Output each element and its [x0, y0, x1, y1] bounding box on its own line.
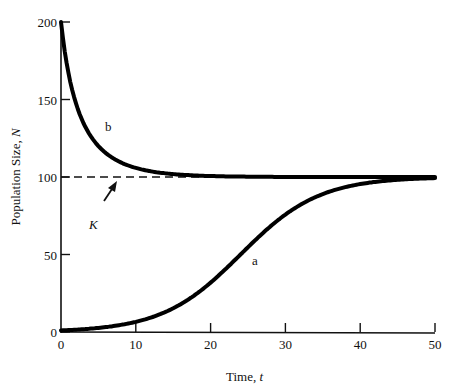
x-tick-label: 0: [58, 337, 65, 352]
y-axis-title-text: Population Size,: [8, 137, 23, 225]
x-tick-label: 50: [429, 337, 442, 352]
logistic-growth-chart: 050100150200 01020304050 a b K Time, t P…: [0, 0, 453, 391]
x-axis-title: Time, t: [226, 369, 263, 384]
y-tick-label: 150: [38, 93, 58, 108]
curve-a: [61, 178, 435, 330]
x-tick-label: 30: [279, 337, 292, 352]
curve-label-a: a: [252, 253, 258, 268]
y-tick-label: 50: [44, 248, 57, 263]
y-tick-label: 100: [38, 170, 58, 185]
k-arrow: [104, 181, 117, 201]
y-axis-title: Population Size, N: [8, 127, 23, 225]
curve-b: [61, 22, 435, 177]
y-tick-label: 0: [51, 325, 58, 340]
y-axis-title-var: N: [8, 127, 23, 138]
k-label: K: [88, 217, 99, 232]
x-axis-title-text: Time,: [226, 369, 259, 384]
x-axis-title-var: t: [259, 369, 263, 384]
curve-label-b: b: [105, 119, 112, 134]
x-tick-label: 10: [129, 337, 142, 352]
curves: [61, 22, 435, 330]
x-tick-label: 20: [204, 337, 217, 352]
x-axis-line: [61, 332, 435, 333]
y-tick-label: 200: [38, 15, 58, 30]
x-tick-label: 40: [354, 337, 367, 352]
